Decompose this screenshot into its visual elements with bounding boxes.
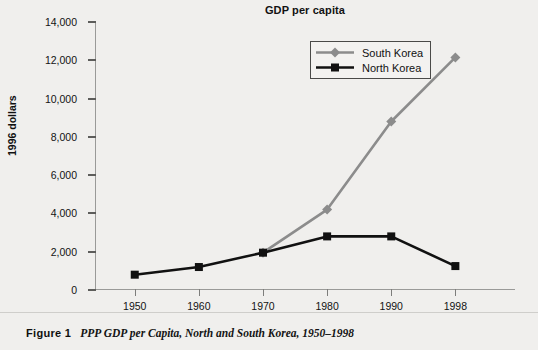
x-axis-tick-label: 1980	[315, 300, 338, 312]
x-axis-tick-label: 1970	[251, 300, 274, 312]
data-point-marker	[259, 249, 267, 257]
legend-item-south-korea[interactable]: South Korea	[315, 45, 423, 60]
y-axis-tick-label: 14,000	[45, 16, 77, 28]
legend-item-north-korea[interactable]: North Korea	[315, 60, 423, 75]
series-line	[135, 236, 456, 274]
plot-area: 02,0004,0006,0008,00010,00012,00014,000 …	[95, 22, 515, 290]
chart-legend: South KoreaNorth Korea	[310, 41, 431, 79]
y-axis-tick-label: 10,000	[45, 93, 77, 105]
series-layer	[95, 22, 515, 290]
x-axis-tick	[455, 289, 456, 296]
x-axis-tick-label: 1950	[123, 300, 146, 312]
x-axis-tick	[327, 289, 328, 296]
data-point-marker	[195, 263, 203, 271]
x-axis-tick	[199, 289, 200, 296]
data-point-marker	[330, 48, 340, 58]
data-point-marker	[331, 64, 339, 72]
figure-caption: Figure 1PPP GDP per Capita, North and So…	[26, 323, 354, 341]
x-axis-tick	[263, 289, 264, 296]
legend-label: North Korea	[362, 62, 421, 74]
caption-figure-label: Figure 1	[26, 327, 71, 339]
y-axis-tick-label: 2,000	[51, 246, 77, 258]
y-axis-tick-label: 12,000	[45, 54, 77, 66]
figure-container: GDP per capita 1996 dollars 02,0004,0006…	[0, 0, 538, 350]
y-axis-tick-label: 8,000	[51, 131, 77, 143]
x-axis-tick-label: 1990	[380, 300, 403, 312]
data-point-marker	[323, 232, 331, 240]
x-axis-tick	[391, 289, 392, 296]
x-axis-tick-label: 1960	[187, 300, 210, 312]
chart-title: GDP per capita	[95, 4, 515, 16]
data-point-marker	[451, 262, 459, 270]
caption-text: PPP GDP per Capita, North and South Kore…	[80, 327, 354, 339]
y-axis-title: 1996 dollars	[6, 95, 18, 156]
series-line	[263, 57, 455, 252]
legend-swatch-diamond-icon	[315, 46, 355, 59]
caption-divider	[0, 312, 538, 313]
legend-label: South Korea	[362, 47, 423, 59]
y-axis-tick-label: 6,000	[51, 169, 77, 181]
x-axis-tick-label: 1998	[444, 300, 467, 312]
data-point-marker	[131, 271, 139, 279]
y-axis-tick-label: 4,000	[51, 207, 77, 219]
x-axis-tick	[135, 289, 136, 296]
y-axis-tick-label: 0	[71, 284, 77, 296]
legend-swatch-square-icon	[315, 61, 355, 74]
data-point-marker	[387, 232, 395, 240]
